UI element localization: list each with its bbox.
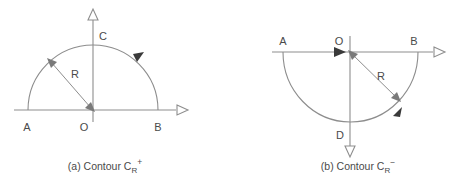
panel-b-vertical-axis-arrowhead (345, 146, 355, 157)
panel-b-caption-prefix: (b) Contour C (321, 160, 385, 172)
contour-diagram-svg: A O B C R (a) Contour CR+ (0, 0, 458, 189)
panel-a-group: A O B C R (a) Contour CR+ (14, 9, 188, 175)
panel-b-caption-subscript: R (384, 166, 390, 175)
panel-b-caption-superscript: − (390, 157, 395, 167)
panel-b-horizontal-axis-arrowhead (434, 47, 445, 57)
panel-a-label-O: O (80, 121, 89, 133)
panel-a-horizontal-axis-arrowhead (177, 105, 188, 115)
panel-b-label-O: O (335, 35, 344, 47)
panel-b-group: A O B D R (b) Contour CR− (272, 35, 445, 175)
panel-a-caption-prefix: (a) Contour C (68, 160, 132, 172)
panel-a-caption-superscript: + (137, 157, 142, 167)
panel-a-label-C: C (99, 30, 107, 42)
panel-b-label-D: D (336, 129, 344, 141)
panel-a-label-A: A (23, 121, 31, 133)
panel-b-label-A: A (279, 35, 287, 47)
panel-a-vertical-axis-arrowhead (88, 9, 98, 20)
panel-b-radius-line (352, 54, 397, 98)
panel-a-caption-subscript: R (131, 166, 137, 175)
panel-b-label-B: B (410, 35, 417, 47)
panel-a-caption: (a) Contour CR+ (68, 157, 142, 175)
panel-b-label-R: R (377, 70, 385, 82)
panel-a-label-B: B (154, 121, 161, 133)
panel-b-arc-direction-arrowhead (393, 107, 402, 117)
panel-b-caption: (b) Contour CR− (321, 157, 395, 175)
contour-figure: A O B C R (a) Contour CR+ (0, 0, 458, 189)
panel-a-label-R: R (71, 68, 79, 80)
panel-b-axis-direction-arrowhead (334, 47, 346, 57)
